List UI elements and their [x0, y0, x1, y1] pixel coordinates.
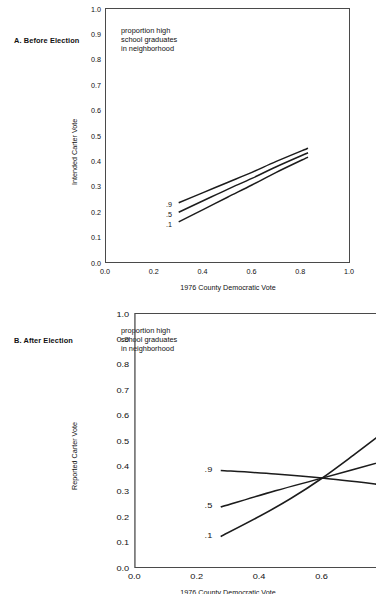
figure-two-panel-line-charts: A. Before Election proportion high schoo…	[0, 0, 376, 594]
panel-a-ytick-3: 0.3	[91, 182, 101, 191]
panel-a-y-tick-labels: 0.0 0.1 0.2 0.3 0.4 0.5 0.6 0.7 0.8 0.9 …	[91, 5, 101, 268]
panel-before-election: A. Before Election proportion high schoo…	[0, 0, 376, 300]
panel-b-curve-label-0.5: .5	[205, 502, 213, 510]
panel-b-ytick-9: 0.9	[116, 336, 129, 344]
panel-a-xtick-0: 0.0	[100, 267, 110, 276]
panel-a-ytick-6: 0.6	[91, 106, 101, 115]
panel-a-ytick-2: 0.2	[91, 208, 101, 217]
panel-b-ytick-10: 1.0	[116, 311, 129, 319]
panel-b-ytick-1: 0.1	[116, 539, 129, 547]
panel-a-ytick-5: 0.5	[91, 132, 101, 141]
panel-b-curve-0.9	[221, 470, 376, 485]
panel-b-ytick-0: 0.0	[116, 565, 129, 573]
panel-a-xtick-1: 0.2	[149, 267, 159, 276]
panel-b-plot-svg: 0.0 0.1 0.2 0.3 0.4 0.5 0.6 0.7 0.8 0.9 …	[0, 300, 376, 594]
panel-a-curve-0.9	[179, 148, 308, 203]
panel-a-xtick-2: 0.4	[198, 267, 208, 276]
panel-b-ytick-6: 0.6	[116, 412, 129, 420]
panel-a-ytick-1: 0.1	[91, 233, 101, 242]
panel-b-x-tick-labels: 0.0 0.2 0.4 0.6 0.8 1.0	[128, 573, 376, 581]
panel-a-plot-frame	[106, 9, 350, 263]
panel-a-curve-0.1	[179, 157, 308, 222]
panel-a-curve-label-0.9: .9	[166, 200, 172, 209]
panel-a-xtick-5: 1.0	[344, 267, 354, 276]
panel-b-xtick-1: 0.2	[190, 573, 203, 581]
panel-a-plot-svg: 0.0 0.1 0.2 0.3 0.4 0.5 0.6 0.7 0.8 0.9 …	[0, 0, 376, 300]
panel-a-ytick-8: 0.8	[91, 55, 101, 64]
panel-a-curve-0.5	[179, 153, 308, 212]
panel-a-xtick-3: 0.6	[246, 267, 256, 276]
panel-b-ytick-3: 0.3	[116, 488, 129, 496]
panel-b-plot-frame	[135, 314, 376, 568]
panel-after-election: B. After Election proportion high school…	[0, 300, 376, 594]
panel-b-ytick-5: 0.5	[116, 438, 129, 446]
panel-b-xtick-0: 0.0	[128, 573, 141, 581]
panel-b-ytick-7: 0.7	[116, 387, 129, 395]
panel-a-ytick-7: 0.7	[91, 81, 101, 90]
panel-b-ytick-4: 0.4	[116, 463, 129, 471]
panel-b-xtick-2: 0.4	[253, 573, 266, 581]
panel-a-xtick-4: 0.8	[295, 267, 305, 276]
panel-a-ytick-9: 0.9	[91, 30, 101, 39]
panel-a-ytick-4: 0.4	[91, 157, 101, 166]
panel-a-ytick-10: 1.0	[91, 5, 101, 14]
panel-b-ytick-8: 0.8	[116, 361, 129, 369]
panel-b-ytick-2: 0.2	[116, 514, 129, 522]
panel-a-x-tick-labels: 0.0 0.2 0.4 0.6 0.8 1.0	[100, 267, 354, 276]
panel-a-curve-label-0.5: .5	[166, 210, 172, 219]
panel-b-curve-label-0.1: .1	[205, 532, 213, 540]
panel-b-y-tick-labels: 0.0 0.1 0.2 0.3 0.4 0.5 0.6 0.7 0.8 0.9 …	[116, 311, 129, 573]
panel-b-curve-0.5	[221, 460, 376, 507]
panel-a-curve-label-0.1: .1	[166, 220, 172, 229]
panel-b-curve-0.1	[221, 429, 376, 536]
panel-b-curve-label-0.9: .9	[205, 466, 213, 474]
panel-b-xtick-3: 0.6	[315, 573, 328, 581]
